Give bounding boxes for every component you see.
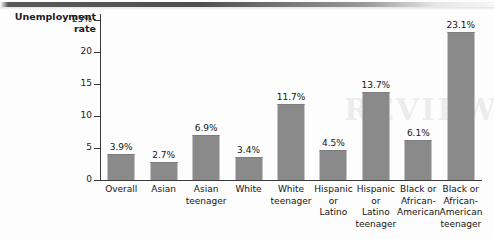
x-axis-category-label-line: Black or: [397, 184, 439, 196]
bar-value-label: 11.7%: [277, 92, 306, 102]
x-axis-category-label-line: teenager: [185, 196, 227, 208]
x-axis-category-label: HispanicorLatinoteenager: [355, 184, 397, 230]
bar-value-label: 3.4%: [237, 145, 260, 155]
x-axis-category-label-line: American: [397, 207, 439, 219]
chart-figure: REVIEW Unemployment rate 25%20151050 3.9…: [0, 0, 494, 239]
bar-group[interactable]: 11.7%: [270, 14, 312, 180]
x-axis-category-label-line: or: [312, 196, 354, 208]
x-axis-category-label: Asian: [142, 184, 184, 196]
bar-group[interactable]: 6.9%: [185, 14, 227, 180]
plot-area: 25%20151050 3.9%2.7%6.9%3.4%11.7%4.5%13.…: [100, 14, 482, 181]
x-axis-category-label-line: or: [355, 196, 397, 208]
x-axis-category-label: Black orAfrican-American: [397, 184, 439, 219]
bar-group[interactable]: 3.4%: [227, 14, 269, 180]
x-axis-category-label-line: American: [440, 207, 482, 219]
bar-group[interactable]: 13.7%: [355, 14, 397, 180]
bar-value-label: 6.1%: [407, 128, 430, 138]
y-axis-tick-label: 25%: [58, 15, 92, 24]
x-axis-category-label-line: teenager: [270, 196, 312, 208]
bar-group[interactable]: 6.1%: [397, 14, 439, 180]
bar-group[interactable]: 4.5%: [312, 14, 354, 180]
x-axis-category-label-line: Hispanic: [312, 184, 354, 196]
x-axis-category-label-line: African-: [397, 196, 439, 208]
bar[interactable]: [150, 162, 177, 180]
x-axis-category-label-line: teenager: [355, 219, 397, 231]
page-top-band-shadow: [0, 7, 494, 10]
bar-group[interactable]: 2.7%: [142, 14, 184, 180]
y-axis-tick: [94, 180, 101, 181]
x-axis-category-label-line: Overall: [100, 184, 142, 196]
bar[interactable]: [235, 157, 262, 180]
x-axis-line: [100, 180, 482, 181]
x-axis-category-label-line: White: [227, 184, 269, 196]
x-axis-category-label: Whiteteenager: [270, 184, 312, 207]
bar[interactable]: [277, 104, 304, 180]
x-axis-category-label-line: teenager: [440, 219, 482, 231]
bar[interactable]: [362, 92, 389, 180]
bar[interactable]: [320, 150, 347, 180]
y-axis-tick-label: 5: [58, 143, 92, 152]
bar-value-label: 13.7%: [362, 80, 391, 90]
x-axis-category-label-line: Hispanic: [355, 184, 397, 196]
bar-group[interactable]: 23.1%: [440, 14, 482, 180]
bar-group[interactable]: 3.9%: [100, 14, 142, 180]
bar-value-label: 3.9%: [110, 142, 133, 152]
bar-value-label: 23.1%: [446, 20, 475, 30]
x-axis-category-label-line: Asian: [142, 184, 184, 196]
bar[interactable]: [447, 32, 474, 180]
bar[interactable]: [193, 135, 220, 180]
x-axis-category-label: Overall: [100, 184, 142, 196]
bar-value-label: 2.7%: [152, 150, 175, 160]
x-axis-category-label-line: Black or: [440, 184, 482, 196]
y-axis-tick-labels: 25%20151050: [56, 14, 92, 181]
x-axis-category-labels: OverallAsianAsianteenagerWhiteWhiteteena…: [100, 184, 482, 236]
x-axis-category-label-line: White: [270, 184, 312, 196]
x-axis-category-label-line: African-: [440, 196, 482, 208]
bar[interactable]: [108, 154, 135, 180]
y-axis-tick-label: 10: [58, 111, 92, 120]
y-axis-tick-label: 0: [58, 175, 92, 184]
x-axis-category-label-line: Asian: [185, 184, 227, 196]
y-axis-tick-label: 15: [58, 79, 92, 88]
x-axis-category-label-line: Latino: [355, 207, 397, 219]
x-axis-category-label: Asianteenager: [185, 184, 227, 207]
bar-value-label: 4.5%: [322, 138, 345, 148]
bar[interactable]: [405, 140, 432, 180]
y-axis-tick-label: 20: [58, 47, 92, 56]
x-axis-category-label: HispanicorLatino: [312, 184, 354, 219]
x-axis-category-label: Black orAfrican-Americanteenager: [440, 184, 482, 230]
bar-value-label: 6.9%: [195, 123, 218, 133]
x-axis-category-label: White: [227, 184, 269, 196]
x-axis-category-label-line: Latino: [312, 207, 354, 219]
